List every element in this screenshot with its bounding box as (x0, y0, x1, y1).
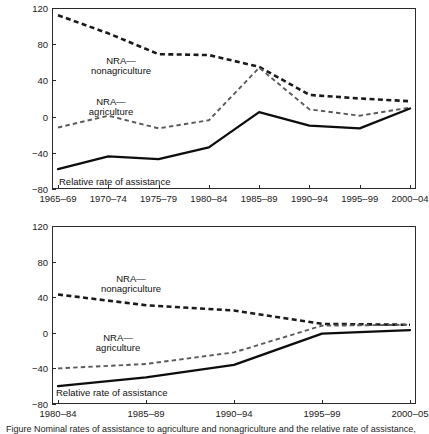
x-tick-mark (259, 185, 260, 189)
annotation-nonagriculture-india: NRA— nonagriculture (62, 56, 180, 77)
y-tick-label: 40 (37, 292, 48, 303)
x-tick-label: 1990–94 (291, 193, 328, 204)
series-line-2 (58, 108, 410, 169)
y-tick-mark (52, 189, 56, 190)
y-tick-mark (52, 226, 56, 227)
x-tick-label: 1975–79 (140, 193, 177, 204)
chart-panel-india: India, rate of assistance (%) 12080400−4… (0, 2, 424, 214)
chart-panel-china: China, rate of assistance (%) 12080400−4… (0, 216, 424, 428)
y-tick-label: 120 (32, 221, 48, 232)
x-tick-label: 2000–05 (392, 408, 429, 419)
annotation-line2: nonagriculture (62, 66, 180, 76)
y-tick-label: 0 (43, 111, 48, 122)
y-tick-mark (52, 262, 56, 263)
annotation-line2: agriculture (70, 343, 166, 353)
x-tick-mark (58, 400, 59, 404)
y-tick-mark (52, 117, 56, 118)
y-tick-label: 0 (43, 327, 48, 338)
y-tick-label: 80 (37, 39, 48, 50)
y-tick-mark (52, 333, 56, 334)
y-tick-label: −40 (32, 147, 48, 158)
x-tick-label: 1980–84 (190, 193, 227, 204)
x-tick-label: 1980–84 (40, 408, 77, 419)
annotation-line1: Relative rate of assistance (56, 388, 167, 398)
x-tick-label: 1995–99 (304, 408, 341, 419)
y-tick-mark (52, 404, 56, 405)
annotation-line2: nonagriculture (72, 284, 190, 294)
x-tick-label: 1995–99 (341, 193, 378, 204)
annotation-line1: Relative rate of assistance (59, 177, 170, 187)
x-tick-label: 1970–74 (90, 193, 127, 204)
y-tick-label: 80 (37, 256, 48, 267)
y-axis-title-china-wrap: China, rate of assistance (%) (0, 224, 18, 404)
x-tick-mark (146, 400, 147, 404)
annotation-agriculture-china: NRA— agriculture (70, 333, 166, 354)
figure-caption: Figure Nominal rates of assistance to ag… (6, 424, 418, 434)
annotation-agriculture-india: NRA— agriculture (63, 97, 159, 118)
y-axis-title-india-wrap: India, rate of assistance (%) (0, 10, 18, 190)
x-tick-mark (410, 400, 411, 404)
x-tick-label: 1985–89 (128, 408, 165, 419)
y-tick-mark (52, 80, 56, 81)
x-tick-mark (410, 185, 411, 189)
x-tick-mark (360, 185, 361, 189)
y-tick-mark (52, 8, 56, 9)
annotation-rra-india: Relative rate of assistance (59, 177, 170, 187)
plot-area-china (52, 226, 416, 404)
x-tick-mark (234, 400, 235, 404)
series-canvas-china (52, 226, 416, 404)
x-tick-label: 1965–69 (40, 193, 77, 204)
x-tick-label: 2000–04 (392, 193, 429, 204)
y-tick-mark (52, 297, 56, 298)
y-tick-label: 120 (32, 3, 48, 14)
y-tick-label: −40 (32, 363, 48, 374)
series-line-0 (58, 295, 410, 325)
x-tick-mark (209, 185, 210, 189)
x-tick-mark (309, 185, 310, 189)
x-tick-label: 1985–89 (241, 193, 278, 204)
y-tick-mark (52, 153, 56, 154)
annotation-rra-china: Relative rate of assistance (56, 388, 167, 398)
x-tick-label: 1990–94 (216, 408, 253, 419)
annotation-line2: agriculture (63, 107, 159, 117)
y-tick-mark (52, 368, 56, 369)
x-tick-mark (322, 400, 323, 404)
y-tick-label: 40 (37, 75, 48, 86)
annotation-nonagriculture-china: NRA— nonagriculture (72, 274, 190, 295)
y-tick-mark (52, 44, 56, 45)
